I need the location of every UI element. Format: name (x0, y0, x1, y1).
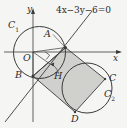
line-equation-label: 4x−3y−6=0 (56, 6, 111, 15)
point-label-c: C (109, 73, 116, 83)
point-dot-c (104, 78, 106, 80)
point-label-h: H (54, 71, 62, 81)
point-dot-a (64, 46, 67, 49)
circle-c2-label-sub: 2 (111, 95, 115, 102)
geometry-figure: 4x−3y−6=0 y x O C1 C2 A B H C D (0, 0, 127, 128)
point-label-b: B (15, 70, 22, 80)
circle-c2-label: C2 (104, 89, 115, 101)
circle-c1-label: C1 (8, 20, 19, 32)
point-label-d: D (71, 114, 79, 124)
right-angle-marker (45, 52, 49, 60)
point-dot-b (32, 75, 35, 78)
circle-c1-label-sub: 1 (15, 26, 19, 33)
y-axis-label: y (27, 5, 32, 14)
origin-label: O (23, 53, 31, 63)
shaded-parallelogram (33, 48, 105, 113)
point-label-a: A (44, 29, 51, 39)
x-axis-label: x (113, 54, 118, 63)
